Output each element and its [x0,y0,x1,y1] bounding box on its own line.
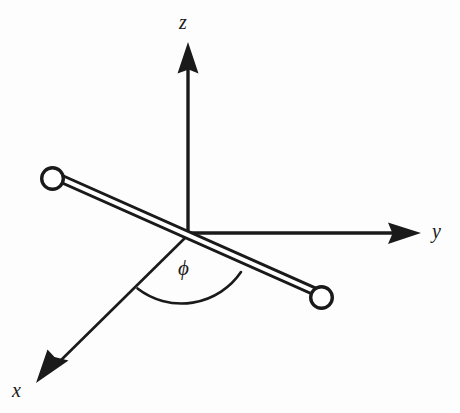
axis-arrowheads [36,42,421,383]
y-arrowhead-icon [388,223,421,245]
dumbbell-mass-lower-right [311,287,333,309]
axis-lines [52,56,406,369]
x-arrowhead-icon [36,350,69,384]
phi-arc-path [138,272,242,303]
figure-canvas: z y x ϕ [0,0,460,413]
dumbbell-mass-upper-left [42,168,64,190]
phi-angle-label: ϕ [178,258,189,279]
y-axis-label: y [432,221,441,241]
phi-angle-arc [138,272,242,303]
x-axis-label: x [12,380,21,400]
z-axis-label: z [179,12,187,32]
z-arrowhead-icon [178,42,199,74]
coordinate-diagram [0,0,460,413]
